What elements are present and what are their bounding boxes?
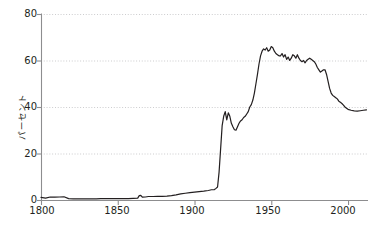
y-tick-label: 0	[15, 195, 37, 205]
axis-ticks	[37, 15, 349, 206]
axis-lines	[41, 14, 368, 201]
chart-figure: パーセント 80 60 40 20 0 1800 1850 1900 1950 …	[0, 0, 374, 233]
data-line-percent	[41, 47, 366, 199]
y-axis-tick-labels: 80 60 40 20 0	[11, 0, 37, 233]
line-chart-svg	[41, 14, 368, 200]
y-tick-label: 60	[15, 56, 37, 66]
plot-area	[41, 14, 368, 200]
y-tick-label: 20	[15, 149, 37, 159]
gridlines	[41, 15, 368, 201]
x-tick-label: 1800	[22, 205, 62, 216]
x-tick-label: 1850	[97, 205, 137, 216]
y-tick-label: 80	[15, 9, 37, 19]
x-axis-tick-labels: 1800 1850 1900 1950 2000	[0, 205, 374, 221]
x-tick-label: 1950	[248, 205, 288, 216]
x-tick-label: 2000	[323, 205, 363, 216]
x-tick-label: 1900	[172, 205, 212, 216]
y-tick-label: 40	[15, 102, 37, 112]
